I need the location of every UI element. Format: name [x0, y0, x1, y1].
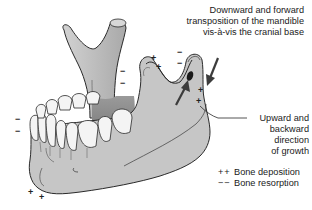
legend-deposition: ++Bone deposition — [218, 167, 300, 178]
resorption-mark: − — [177, 48, 182, 57]
displacement-arrow-icon — [206, 58, 218, 86]
resorption-symbol: −− — [218, 178, 234, 189]
deposition-mark: + — [196, 97, 201, 106]
resorption-mark: − — [120, 67, 125, 76]
far-condyle-top — [110, 19, 126, 27]
deposition-mark: + — [39, 193, 44, 202]
displacement-label-line-3: vis-à-vis the cranial base — [154, 27, 304, 38]
resorption-text: Bone resorption — [234, 178, 299, 188]
displacement-label-line-2: transposition of the mandible — [154, 16, 304, 27]
displacement-label-line-1: Downward and forward — [154, 5, 304, 16]
growth-label-line-2: backward direction — [247, 124, 309, 146]
resorption-mark: − — [120, 79, 125, 88]
deposition-mark: + — [28, 188, 33, 197]
displacement-label: Downward and forward transposition of th… — [154, 5, 304, 38]
deposition-text: Bone deposition — [234, 167, 300, 177]
deposition-mark: + — [198, 86, 203, 95]
growth-label-line-3: of growth — [247, 146, 309, 157]
growth-label: Upward and backward direction of growth — [247, 113, 309, 157]
deposition-symbol: ++ — [218, 167, 234, 178]
deposition-mark: + — [156, 63, 161, 72]
legend-resorption: −−Bone resorption — [218, 178, 300, 189]
resorption-mark: − — [177, 59, 182, 68]
legend: ++Bone deposition −−Bone resorption — [218, 167, 300, 189]
growth-label-line-1: Upward and — [247, 113, 309, 124]
resorption-mark: − — [15, 127, 20, 136]
resorption-mark: − — [15, 115, 20, 124]
